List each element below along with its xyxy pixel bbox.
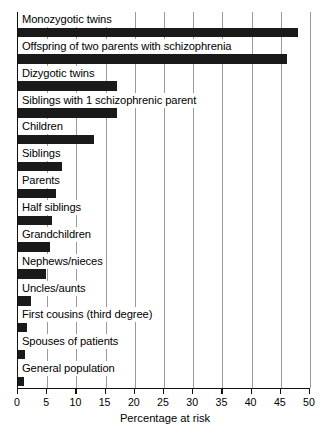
- x-tick-label-20: 20: [128, 395, 140, 409]
- bar-row: Siblings: [18, 146, 310, 173]
- bar-row: Spouses of patients: [18, 334, 310, 361]
- risk-of-schizophrenia-bar-chart: Monozygotic twinsOffspring of two parent…: [0, 0, 330, 447]
- x-tick-label-35: 35: [215, 395, 227, 409]
- x-tick-label-15: 15: [99, 395, 111, 409]
- x-tick-5: [46, 388, 47, 394]
- bar: [18, 242, 50, 252]
- category-label: Siblings with 1 schizophrenic parent: [22, 93, 199, 108]
- bar: [18, 216, 52, 226]
- bar-row: First cousins (third degree): [18, 307, 310, 334]
- bar-rows: Monozygotic twinsOffspring of two parent…: [18, 12, 310, 388]
- x-tick-label-0: 0: [14, 395, 20, 409]
- category-label: Grandchildren: [22, 227, 94, 242]
- x-tick-label-30: 30: [186, 395, 198, 409]
- x-tick-20: [134, 388, 135, 394]
- x-tick-35: [221, 388, 222, 394]
- bar-row: Monozygotic twins: [18, 12, 310, 39]
- bar-row: Parents: [18, 173, 310, 200]
- x-tick-10: [75, 388, 76, 394]
- x-tick-0: [17, 388, 18, 394]
- bar: [18, 81, 117, 91]
- x-tick-label-45: 45: [274, 395, 286, 409]
- category-label: Spouses of patients: [22, 334, 121, 349]
- bar-row: Offspring of two parents with schizophre…: [18, 39, 310, 66]
- bar-row: Dizygotic twins: [18, 66, 310, 93]
- bar-row: Uncles/aunts: [18, 281, 310, 308]
- bar-row: Children: [18, 119, 310, 146]
- category-label: Dizygotic twins: [22, 66, 97, 81]
- plot-area: Monozygotic twinsOffspring of two parent…: [17, 12, 310, 389]
- category-label: Siblings: [22, 146, 63, 161]
- category-label: General population: [22, 361, 118, 376]
- x-tick-label-10: 10: [69, 395, 81, 409]
- category-label: Parents: [22, 173, 63, 188]
- bar: [18, 323, 27, 333]
- category-label: Nephews/nieces: [22, 254, 106, 269]
- x-tick-25: [163, 388, 164, 394]
- bar-row: Half siblings: [18, 200, 310, 227]
- category-label: First cousins (third degree): [22, 307, 155, 322]
- bar-row: Siblings with 1 schizophrenic parent: [18, 93, 310, 120]
- bar: [18, 28, 298, 38]
- bar: [18, 189, 56, 199]
- x-axis-tick-labels: 05101520253035404550: [17, 395, 309, 411]
- x-tick-label-50: 50: [303, 395, 315, 409]
- category-label: Children: [22, 119, 66, 134]
- bar: [18, 269, 46, 279]
- x-tick-label-5: 5: [43, 395, 49, 409]
- bar: [18, 54, 287, 64]
- bar-row: Grandchildren: [18, 227, 310, 254]
- gridline-50: [310, 12, 311, 388]
- category-label: Half siblings: [22, 200, 84, 215]
- bar: [18, 350, 25, 360]
- x-tick-45: [280, 388, 281, 394]
- bar: [18, 377, 24, 387]
- bar: [18, 135, 94, 145]
- x-tick-30: [192, 388, 193, 394]
- category-label: Uncles/aunts: [22, 281, 88, 296]
- bar: [18, 108, 117, 118]
- bar: [18, 162, 62, 172]
- category-label: Monozygotic twins: [22, 12, 115, 27]
- category-label: Offspring of two parents with schizophre…: [22, 39, 234, 54]
- x-axis-title: Percentage at risk: [0, 412, 330, 424]
- bar-row: General population: [18, 361, 310, 388]
- x-tick-label-40: 40: [245, 395, 257, 409]
- bar: [18, 296, 31, 306]
- x-axis-ticks: [17, 388, 309, 395]
- x-tick-15: [105, 388, 106, 394]
- bar-row: Nephews/nieces: [18, 254, 310, 281]
- x-tick-label-25: 25: [157, 395, 169, 409]
- x-tick-50: [309, 388, 310, 394]
- x-tick-40: [251, 388, 252, 394]
